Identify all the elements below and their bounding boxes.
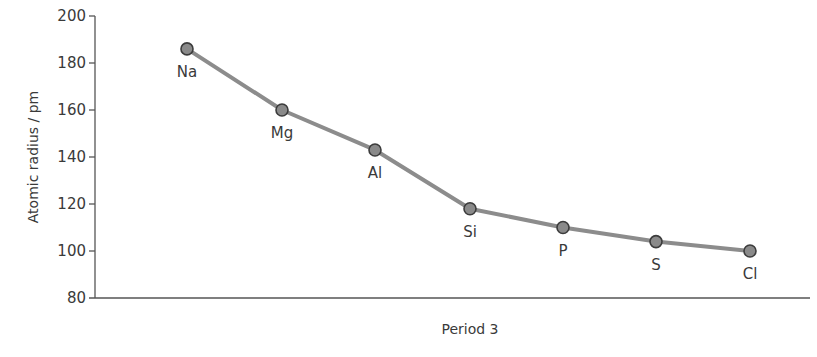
point-label-p: P <box>558 242 567 260</box>
y-axis-title: Atomic radius / pm <box>25 91 41 223</box>
y-tick-label: 140 <box>57 148 86 166</box>
data-point-cl <box>744 245 756 257</box>
series-line <box>187 49 750 251</box>
point-labels: NaMgAlSiPSCl <box>177 63 758 283</box>
y-tick-label: 200 <box>57 7 86 25</box>
y-tick-label: 180 <box>57 54 86 72</box>
point-label-s: S <box>651 256 661 274</box>
point-label-si: Si <box>463 223 477 241</box>
point-label-na: Na <box>177 63 197 81</box>
data-point-na <box>181 43 193 55</box>
y-tick-label: 120 <box>57 195 86 213</box>
data-point-mg <box>276 104 288 116</box>
data-point-al <box>369 144 381 156</box>
point-label-cl: Cl <box>743 265 758 283</box>
atomic-radius-chart: 80100120140160180200Atomic radius / pmPe… <box>0 0 817 357</box>
point-label-mg: Mg <box>271 124 293 142</box>
point-label-al: Al <box>368 164 382 182</box>
data-point-s <box>650 236 662 248</box>
y-tick-label: 80 <box>67 289 86 307</box>
axes: 80100120140160180200Atomic radius / pmPe… <box>25 7 810 337</box>
y-tick-label: 100 <box>57 242 86 260</box>
x-axis-title: Period 3 <box>441 321 498 337</box>
data-point-p <box>557 222 569 234</box>
y-tick-label: 160 <box>57 101 86 119</box>
data-point-si <box>464 203 476 215</box>
